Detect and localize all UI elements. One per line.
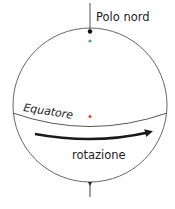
equator-point	[88, 115, 91, 118]
rotation-arrow	[35, 132, 150, 139]
north-pole-label: Polo nord	[96, 10, 150, 24]
near-pole-point	[88, 39, 91, 42]
north-pole-point	[88, 29, 92, 33]
earth-rotation-diagram: Polo nord Equatore rotazione	[0, 0, 175, 209]
axis-bottom-marker	[88, 182, 92, 186]
rotation-label: rotazione	[72, 148, 126, 162]
